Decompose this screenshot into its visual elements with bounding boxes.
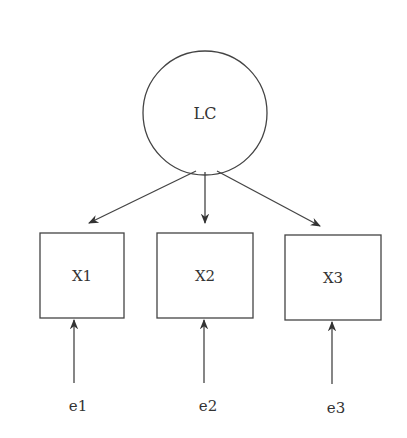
indicator-node-x1: X1 bbox=[40, 233, 124, 318]
latent-node-lc: LC bbox=[143, 51, 267, 175]
indicator-label: X2 bbox=[195, 267, 215, 285]
arrow-lc-x1 bbox=[89, 171, 196, 223]
indicator-label: X1 bbox=[72, 267, 92, 285]
latent-label: LC bbox=[194, 104, 217, 123]
arrow-lc-x3 bbox=[217, 171, 320, 226]
path-diagram: LC X1 X2 X3 e1 e2 e3 bbox=[0, 0, 407, 438]
error-label-e3: e3 bbox=[327, 399, 345, 417]
indicator-node-x3: X3 bbox=[285, 235, 381, 320]
error-label-e1: e1 bbox=[69, 397, 87, 415]
indicator-label: X3 bbox=[323, 269, 343, 287]
error-label-e2: e2 bbox=[199, 397, 217, 415]
indicator-node-x2: X2 bbox=[157, 233, 253, 318]
